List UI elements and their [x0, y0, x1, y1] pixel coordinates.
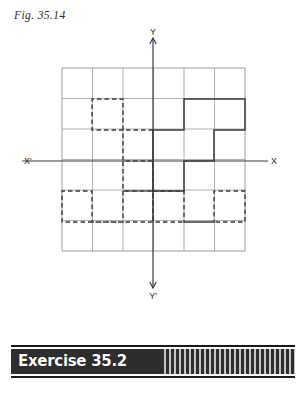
banner-label: Exercise 35.2 [18, 352, 127, 370]
banner-rule-bottom [11, 376, 295, 378]
axis-label-y-positive: Y [150, 27, 156, 37]
staircase-dashed-quadrant-3 [62, 191, 153, 222]
axis-label-y-negative: Y' [149, 291, 157, 301]
staircase-solid-quadrant-1 [153, 99, 245, 191]
staircase-dashed-quadrant-2 [92, 99, 153, 191]
exercise-banner: Exercise 35.2 [0, 345, 306, 379]
banner-rule-top [11, 345, 295, 347]
coordinate-plane-svg: X' X Y Y' [0, 0, 306, 310]
figure-diagram: X' X Y Y' [0, 0, 306, 310]
staircase-dashed-quadrant-4 [153, 191, 245, 222]
axis-label-x-positive: X [271, 156, 277, 166]
banner-bar: Exercise 35.2 [11, 349, 295, 374]
page-root: Fig. 35.14 X' X Y Y' Exercise 35.2 [0, 0, 306, 393]
axis-label-x-negative: X' [24, 156, 32, 166]
